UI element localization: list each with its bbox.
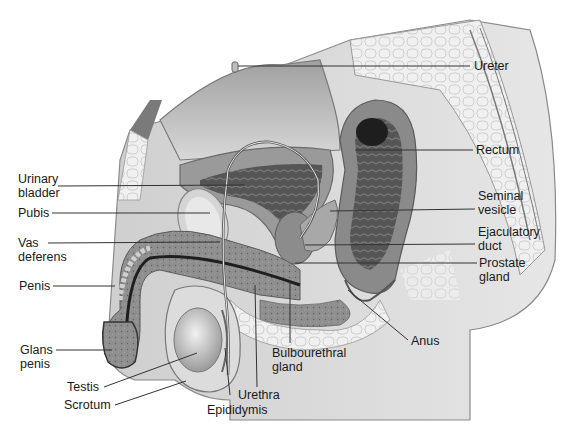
label-ureter: Ureter bbox=[474, 59, 509, 73]
label-epididymis: Epididymis bbox=[207, 403, 267, 417]
label-penis: Penis bbox=[19, 279, 50, 293]
label-testis: Testis bbox=[67, 380, 99, 394]
label-prostate-gland: Prostate gland bbox=[479, 256, 526, 284]
label-scrotum: Scrotum bbox=[64, 398, 111, 412]
label-bulbourethral-gland: Bulbourethral gland bbox=[272, 346, 346, 374]
label-urinary-bladder: Urinary bladder bbox=[18, 172, 60, 200]
label-rectum: Rectum bbox=[476, 143, 519, 157]
label-pubis: Pubis bbox=[18, 206, 49, 220]
leader-scrotum bbox=[115, 381, 186, 405]
label-anus: Anus bbox=[411, 334, 440, 348]
ureter-stub bbox=[232, 62, 238, 72]
label-seminal-vesicle: Seminal vesicle bbox=[478, 189, 523, 217]
label-urethra: Urethra bbox=[238, 388, 280, 402]
label-ejaculatory-duct: Ejaculatory duct bbox=[478, 225, 540, 253]
label-vas-deferens: Vas deferens bbox=[18, 236, 67, 264]
label-glans-penis: Glans penis bbox=[20, 343, 53, 371]
